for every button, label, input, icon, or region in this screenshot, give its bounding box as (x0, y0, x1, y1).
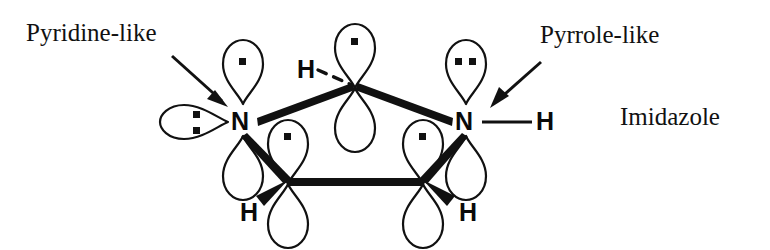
electron-dot (284, 133, 291, 140)
electron-dot (469, 58, 476, 65)
hydrogen-label-c2: H (297, 57, 315, 82)
electron-dot (455, 58, 462, 65)
lone-pair-dot (193, 111, 200, 118)
orbital-lobe-c4-upper (403, 120, 443, 184)
hydrogen-label-n3: H (536, 109, 554, 134)
ring-bond-c5-c4 (288, 178, 423, 186)
callout-arrow-pyridine (172, 56, 228, 107)
molecule-name-caption: Imidazole (620, 104, 720, 129)
orbital-lobe-n1-upper (223, 40, 263, 104)
electron-dot (419, 133, 426, 140)
electron-dot (239, 58, 246, 65)
electron-dot (351, 38, 358, 45)
atom-label-n3: N (455, 109, 473, 134)
callout-arrow-pyrrole (490, 62, 541, 108)
atom-label-n1: N (231, 109, 249, 134)
figure-canvas: N N H H H H Pyridine-like Pyrrole-like I… (0, 0, 770, 250)
lone-pair-dot (193, 127, 200, 134)
hydrogen-label-c4: H (459, 200, 477, 225)
orbital-lobe-c2-lower (335, 88, 375, 152)
orbital-lobe-n3-upper (446, 40, 486, 104)
callout-label-pyrrole: Pyrrole-like (540, 22, 659, 47)
sp2-lone-pair-lobe-n1 (160, 105, 228, 139)
callout-label-pyridine: Pyridine-like (26, 20, 157, 45)
hydrogen-label-c5: H (240, 200, 258, 225)
orbital-lobe-c5-upper (268, 120, 308, 184)
